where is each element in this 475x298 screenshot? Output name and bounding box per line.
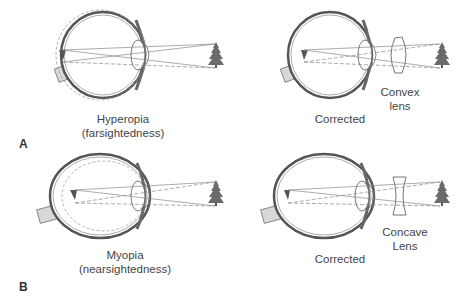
- lens-label-line1: Convex: [370, 85, 430, 99]
- concave-lens-label: Concave Lens: [370, 225, 440, 253]
- lens-label-line2: lens: [370, 99, 430, 113]
- panel-letter-a: A: [19, 137, 28, 151]
- hyperopia-caption: Hyperopia (farsightedness): [73, 112, 173, 140]
- hyperopia-eye: [54, 10, 224, 100]
- caption-line1: Hyperopia: [73, 112, 173, 126]
- convex-lens: [391, 37, 406, 73]
- corrected-caption-b: Corrected: [305, 252, 375, 266]
- convex-lens-label: Convex lens: [370, 85, 430, 113]
- lens-label-line1: Concave: [370, 225, 440, 239]
- myopia-caption: Myopia (nearsightedness): [60, 248, 190, 276]
- caption-line2: (nearsightedness): [60, 262, 190, 276]
- myopia-eye: [37, 154, 224, 238]
- tree-icon: [208, 42, 224, 68]
- concave-lens: [393, 177, 406, 215]
- caption-line2: (farsightedness): [73, 126, 173, 140]
- corrected-caption-a: Corrected: [305, 112, 375, 126]
- lens-label-line2: Lens: [370, 239, 440, 253]
- panel-letter-b: B: [19, 280, 28, 294]
- caption-line1: Myopia: [60, 248, 190, 262]
